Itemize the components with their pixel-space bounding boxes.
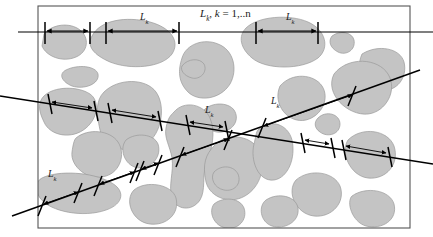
phase-blob (241, 17, 325, 67)
phase-blob (315, 114, 340, 135)
title-symbol: L (199, 7, 206, 19)
title-range: 1,..n (231, 7, 251, 19)
intercept-length-figure: Lk, k = 1,..n Lk Lk Lk Lk Lk (0, 0, 433, 237)
phase-blob (261, 196, 298, 227)
title-equals: = (220, 7, 232, 19)
phase-blob (253, 124, 293, 180)
phase-blob (130, 184, 177, 224)
figure-container: Lk, k = 1,..n Lk Lk Lk Lk Lk (0, 0, 433, 237)
phase-blob (42, 25, 86, 59)
